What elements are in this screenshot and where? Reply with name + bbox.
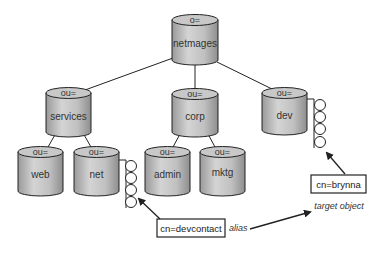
- node-name-label: netmages: [173, 38, 217, 49]
- entries-bracket: [307, 99, 314, 148]
- node-type-label: ou=: [33, 147, 48, 157]
- entries-bracket: [119, 160, 126, 208]
- edge-root-services: [85, 58, 173, 90]
- net-entries-stack: [119, 160, 137, 208]
- node-type-label: ou=: [215, 147, 230, 157]
- entry-circle: [315, 100, 326, 111]
- node-services: ou= services: [46, 88, 91, 138]
- arrow-alias-to-target: [250, 212, 310, 229]
- node-type-label: ou=: [277, 88, 292, 98]
- entry-circle: [126, 185, 137, 196]
- entry-circle: [126, 161, 137, 172]
- node-name-label: corp: [185, 111, 205, 122]
- arrow-alias-to-net-entries: [139, 199, 160, 219]
- node-name-label: dev: [276, 110, 292, 121]
- node-name-label: mktg: [212, 167, 234, 178]
- node-dev: ou= dev: [262, 88, 307, 136]
- ldap-alias-diagram: o= netmages ou= services ou= corp ou= de…: [0, 0, 383, 254]
- node-type-label: o=: [190, 15, 200, 25]
- entry-circle: [315, 137, 326, 148]
- target-annotation: target object: [314, 201, 364, 211]
- node-name-label: web: [30, 169, 50, 180]
- node-name-label: net: [90, 169, 104, 180]
- node-type-label: ou=: [187, 89, 202, 99]
- entry-circle: [315, 124, 326, 135]
- node-type-label: ou=: [89, 147, 104, 157]
- arrow-target-to-dev-entries: [327, 153, 345, 174]
- node-netmages: o= netmages: [172, 15, 218, 66]
- target-label: cn=brynna: [316, 179, 361, 190]
- entry-circle: [315, 112, 326, 123]
- node-mktg: ou= mktg: [200, 147, 245, 197]
- dev-entries-stack: [307, 99, 326, 148]
- node-corp: ou= corp: [172, 89, 218, 138]
- node-name-label: services: [50, 111, 87, 122]
- node-name-label: admin: [154, 169, 181, 180]
- node-admin: ou= admin: [145, 147, 190, 197]
- alias-entry: cn=devcontact alias: [157, 219, 248, 237]
- node-net: ou= net: [74, 147, 119, 197]
- entry-circle: [126, 197, 137, 208]
- alias-label: cn=devcontact: [160, 223, 222, 234]
- entry-circle: [126, 173, 137, 184]
- node-type-label: ou=: [61, 88, 76, 98]
- alias-annotation: alias: [229, 223, 248, 233]
- node-type-label: ou=: [160, 147, 175, 157]
- target-entry: cn=brynna target object: [311, 175, 366, 211]
- node-web: ou= web: [18, 147, 63, 197]
- edge-root-dev: [217, 62, 272, 89]
